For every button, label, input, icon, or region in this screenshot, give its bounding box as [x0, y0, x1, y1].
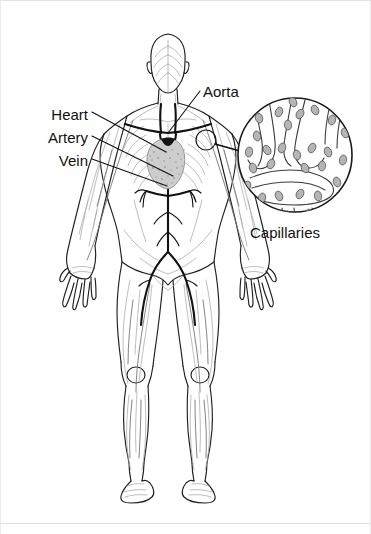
diagram-page: Heart Artery Vein Aorta Capillaries	[0, 0, 371, 534]
label-aorta: Aorta	[203, 84, 239, 99]
shoulder-callout-circle	[196, 130, 216, 150]
body-outline	[60, 34, 276, 503]
leader-line-aorta	[168, 91, 200, 133]
capillary-inset	[238, 95, 352, 228]
faint-anatomy	[72, 40, 264, 497]
label-heart: Heart	[0, 107, 88, 122]
circulatory-system-figure	[0, 0, 371, 534]
leader-lines	[92, 91, 200, 186]
label-capillaries: Capillaries	[250, 225, 320, 240]
label-artery: Artery	[0, 130, 88, 145]
bottom-divider	[0, 523, 371, 524]
label-vein: Vein	[0, 153, 88, 168]
